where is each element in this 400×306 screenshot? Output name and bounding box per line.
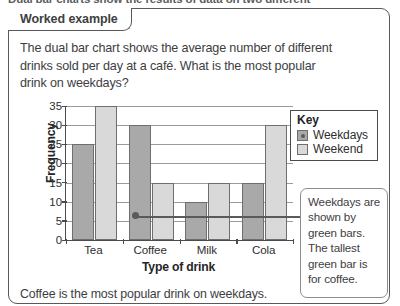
x-axis-tick-labels: TeaCoffeeMilkCola xyxy=(65,243,292,259)
y-axis-tick-label: 20 xyxy=(49,158,62,169)
y-axis-tick-labels: 05101520253035 xyxy=(36,100,62,240)
legend-label-weekend: Weekend xyxy=(313,143,363,156)
y-axis-tick-label: 10 xyxy=(49,196,62,207)
annotation-callout: Weekdays are shown by green bars. The ta… xyxy=(300,188,388,298)
x-axis-tick-label: Tea xyxy=(84,243,102,256)
legend-swatch-weekdays-icon xyxy=(297,130,308,141)
dual-bar-chart: Frequency 05101520253035 TeaCoffeeMilkCo… xyxy=(18,100,304,280)
y-axis-tick-label: 30 xyxy=(49,120,62,131)
bar-coffee-weekend xyxy=(152,183,174,240)
plot-area xyxy=(65,106,293,241)
y-axis-tick xyxy=(62,182,67,183)
y-axis-tick-label: 35 xyxy=(49,101,62,112)
chart-legend: Key Weekdays Weekend xyxy=(290,110,378,161)
annotation-pointer-dot xyxy=(132,212,139,219)
bar-milk-weekend xyxy=(208,183,230,240)
bar-coffee-weekdays xyxy=(129,125,151,240)
bar-tea-weekdays xyxy=(72,144,94,240)
answer-text: Coffee is the most popular drink on week… xyxy=(20,286,295,302)
worked-example-tab: Worked example xyxy=(8,8,132,31)
legend-item-weekdays: Weekdays xyxy=(297,129,372,142)
y-axis-tick xyxy=(62,201,67,202)
x-axis-tick-label: Milk xyxy=(197,243,217,256)
legend-title: Key xyxy=(297,114,372,127)
x-axis-title: Type of drink xyxy=(65,260,292,274)
bar-milk-weekdays xyxy=(185,202,207,240)
bar-tea-weekend xyxy=(95,106,117,240)
bar-cola-weekend xyxy=(265,125,287,240)
legend-item-weekend: Weekend xyxy=(297,143,372,156)
y-axis-tick-label: 25 xyxy=(49,139,62,150)
legend-label-weekdays: Weekdays xyxy=(313,129,368,142)
y-axis-tick-label: 15 xyxy=(49,177,62,188)
x-axis-tick-label: Cola xyxy=(252,243,275,256)
y-axis-tick xyxy=(62,163,67,164)
annotation-pointer-line xyxy=(136,216,304,218)
y-axis-tick xyxy=(62,125,67,126)
question-text: The dual bar chart shows the average num… xyxy=(20,40,336,93)
legend-swatch-weekend-icon xyxy=(297,144,308,155)
x-axis-tick-label: Coffee xyxy=(133,243,166,256)
bar-cola-weekdays xyxy=(242,183,264,240)
x-axis-tick xyxy=(293,239,294,244)
y-axis-tick xyxy=(62,144,67,145)
y-axis-tick xyxy=(62,106,67,107)
y-axis-tick xyxy=(62,220,67,221)
cut-off-heading: Dual bar charts show the results of data… xyxy=(8,0,388,5)
